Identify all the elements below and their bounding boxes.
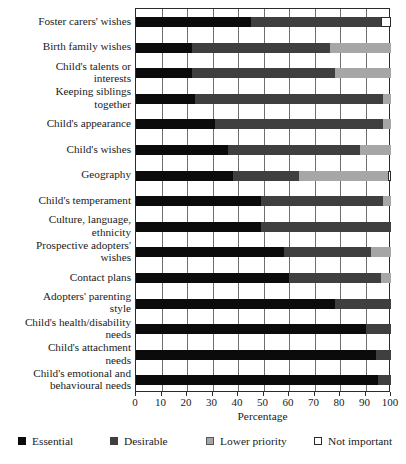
bar-segment-essential — [136, 171, 233, 181]
bar-segment-essential — [136, 299, 335, 309]
legend-item-not-important[interactable]: Not important — [314, 435, 392, 447]
bar-row — [136, 214, 389, 240]
legend-swatch-not-important — [314, 437, 322, 445]
bar-segment-desirable — [192, 68, 335, 78]
category-label-line: ethnicity — [0, 226, 131, 238]
category-label: Child's health/disabilityneeds — [0, 316, 131, 341]
bar-rows — [136, 9, 389, 391]
bar-row — [136, 111, 389, 137]
bar-segment-essential — [136, 196, 261, 206]
stacked-bar — [136, 273, 391, 283]
category-label-line: Keeping siblings — [0, 85, 131, 97]
bar-segment-essential — [136, 94, 195, 104]
category-label: Child's temperament — [0, 194, 131, 206]
x-tick-label-70: 70 — [308, 396, 319, 408]
bar-segment-desirable — [289, 273, 381, 283]
bar-segment-essential — [136, 145, 228, 155]
stacked-bar — [136, 145, 391, 155]
bar-segment-desirable — [233, 171, 299, 181]
stacked-bar — [136, 68, 391, 78]
category-label: Foster carers' wishes — [0, 15, 131, 27]
x-axis-title: Percentage — [135, 410, 390, 422]
legend-label: Lower priority — [220, 435, 287, 447]
bar-segment-lower-priority — [335, 68, 391, 78]
category-label: Keeping siblingstogether — [0, 85, 131, 110]
category-label-line: together — [0, 98, 131, 110]
legend-label: Desirable — [124, 435, 168, 447]
bar-segment-lower-priority — [360, 145, 391, 155]
category-label-line: Contact plans — [0, 271, 131, 283]
category-label: Child's attachmentneeds — [0, 341, 131, 366]
bar-segment-desirable — [378, 375, 391, 385]
bar-row — [136, 188, 389, 214]
bar-segment-essential — [136, 119, 215, 129]
bar-segment-essential — [136, 68, 192, 78]
category-label-line: Child's attachment — [0, 341, 131, 353]
category-label-line: Child's temperament — [0, 194, 131, 206]
legend-label: Essential — [32, 435, 73, 447]
category-label: Culture, language,ethnicity — [0, 213, 131, 238]
category-axis-labels: Foster carers' wishesBirth family wishes… — [0, 8, 131, 392]
bar-segment-lower-priority — [383, 196, 391, 206]
category-label: Birth family wishes — [0, 40, 131, 52]
legend-item-lower-priority[interactable]: Lower priority — [206, 435, 287, 447]
category-label: Child's emotional andbehavioural needs — [0, 367, 131, 392]
bar-row — [136, 342, 389, 368]
plot-area — [135, 8, 390, 392]
bar-segment-lower-priority — [381, 273, 391, 283]
category-label-line: Child's emotional and — [0, 367, 131, 379]
bar-segment-desirable — [215, 119, 383, 129]
category-label-line: needs — [0, 328, 131, 340]
bar-segment-desirable — [251, 17, 381, 27]
category-label-line: wishes — [0, 251, 131, 263]
bar-segment-essential — [136, 222, 261, 232]
bar-segment-not-important — [381, 17, 391, 27]
x-tick-label-30: 30 — [206, 396, 217, 408]
bar-segment-desirable — [192, 43, 330, 53]
x-tick-label-0: 0 — [132, 396, 138, 408]
bar-row — [136, 367, 389, 393]
category-label: Child's talents orinterests — [0, 60, 131, 85]
bar-segment-essential — [136, 273, 289, 283]
bar-row — [136, 86, 389, 112]
bar-segment-desirable — [376, 350, 391, 360]
bar-row — [136, 265, 389, 291]
stacked-bar — [136, 196, 391, 206]
stacked-bar — [136, 222, 391, 232]
category-label-line: Child's talents or — [0, 60, 131, 72]
bar-row — [136, 239, 389, 265]
category-label-line: Culture, language, — [0, 213, 131, 225]
category-label-line: interests — [0, 72, 131, 84]
legend-item-desirable[interactable]: Desirable — [110, 435, 168, 447]
stacked-bar — [136, 375, 391, 385]
legend-swatch-lower-priority — [206, 437, 214, 445]
category-label-line: Adopters' parenting — [0, 290, 131, 302]
bar-segment-essential — [136, 350, 376, 360]
legend-swatch-essential — [18, 437, 26, 445]
category-label: Contact plans — [0, 271, 131, 283]
category-label-line: behavioural needs — [0, 379, 131, 391]
bar-segment-essential — [136, 43, 192, 53]
bar-segment-essential — [136, 324, 366, 334]
x-tick-label-10: 10 — [155, 396, 166, 408]
stacked-bar — [136, 94, 391, 104]
bar-row — [136, 291, 389, 317]
bar-row — [136, 316, 389, 342]
bar-segment-not-important — [388, 171, 391, 181]
bar-segment-lower-priority — [383, 94, 391, 104]
bar-segment-lower-priority — [330, 43, 391, 53]
bar-segment-lower-priority — [371, 247, 391, 257]
category-label-line: Child's health/disability — [0, 316, 131, 328]
stacked-bar — [136, 171, 391, 181]
bar-row — [136, 35, 389, 61]
category-label-line: Geography — [0, 168, 131, 180]
stacked-bar — [136, 17, 391, 27]
legend-item-essential[interactable]: Essential — [18, 435, 73, 447]
bar-row — [136, 9, 389, 35]
category-label: Child's appearance — [0, 117, 131, 129]
x-tick-label-100: 100 — [382, 396, 399, 408]
x-tick-label-20: 20 — [181, 396, 192, 408]
stacked-bar-chart: Foster carers' wishesBirth family wishes… — [0, 0, 406, 464]
x-tick-label-80: 80 — [334, 396, 345, 408]
bar-segment-essential — [136, 247, 284, 257]
